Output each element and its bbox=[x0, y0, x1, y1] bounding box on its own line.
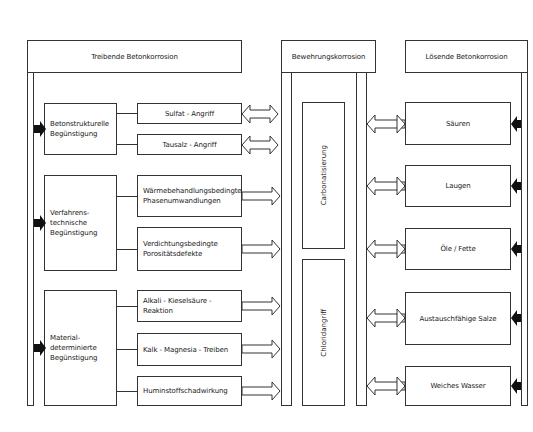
arrow-right-icon bbox=[242, 297, 280, 315]
arrows-overlay bbox=[0, 0, 533, 432]
arrow-right-icon bbox=[242, 340, 280, 358]
solid-arrow-icon bbox=[511, 310, 521, 326]
arrow-right-icon bbox=[242, 382, 280, 400]
double-arrow-icon bbox=[242, 136, 278, 154]
arrow-right-icon bbox=[242, 187, 280, 205]
solid-arrow-icon bbox=[34, 215, 46, 231]
arrow-right-icon bbox=[242, 240, 280, 258]
solid-arrow-icon bbox=[511, 241, 521, 257]
solid-arrow-icon bbox=[34, 340, 46, 356]
solid-arrow-icon bbox=[511, 378, 521, 394]
solid-arrow-icon bbox=[511, 178, 521, 194]
solid-arrow-icon bbox=[511, 116, 521, 132]
solid-arrow-icon bbox=[34, 121, 46, 137]
double-arrow-icon bbox=[242, 105, 278, 123]
